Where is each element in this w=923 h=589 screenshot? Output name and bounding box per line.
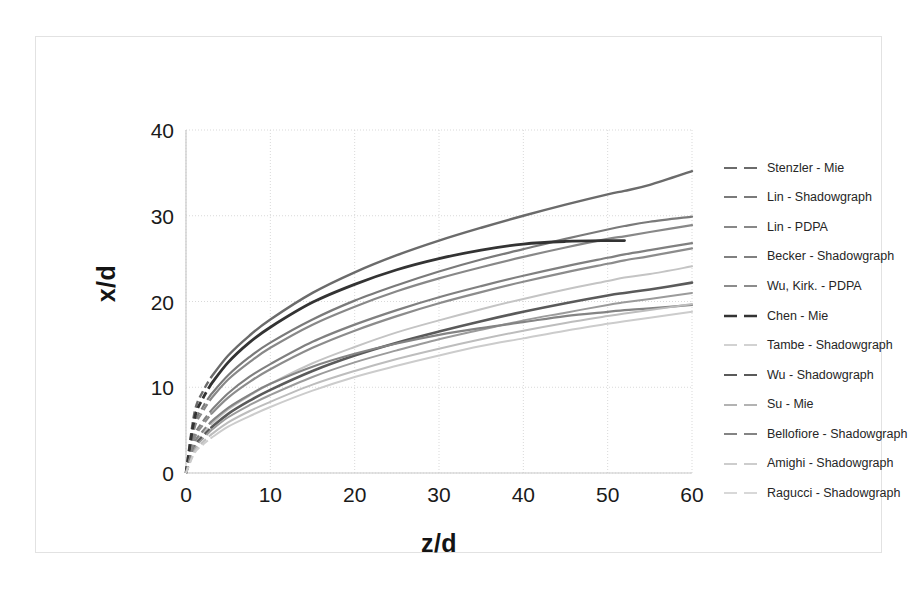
data-curve-dashed-head (186, 414, 211, 473)
legend-label: Ragucci - Shadowgraph (767, 487, 900, 500)
legend-line-icon (724, 487, 760, 499)
y-tick-label: 10 (130, 377, 174, 398)
y-tick-label: 20 (130, 292, 174, 313)
plot-canvas (186, 130, 692, 473)
legend-item[interactable]: Wu - Shadowgraph (724, 360, 920, 390)
legend-label: Chen - Mie (767, 310, 828, 323)
y-tick-label: 40 (130, 120, 174, 141)
data-curve (211, 283, 692, 428)
legend-label: Stenzler - Mie (767, 162, 844, 175)
legend-line-icon (724, 251, 760, 263)
gridlines (186, 130, 692, 473)
x-tick-label: 20 (325, 484, 385, 505)
legend-item[interactable]: Bellofiore - Shadowgraph (724, 419, 920, 449)
legend-line-icon (724, 162, 760, 174)
legend-line-icon (724, 458, 760, 470)
legend-label: Bellofiore - Shadowgraph (767, 428, 907, 441)
x-tick-label: 60 (662, 484, 722, 505)
data-curve (211, 217, 692, 394)
legend-item[interactable]: Becker - Shadowgraph (724, 242, 920, 272)
legend-item[interactable]: Lin - Shadowgraph (724, 183, 920, 213)
legend-label: Wu - Shadowgraph (767, 369, 874, 382)
legend-label: Su - Mie (767, 398, 814, 411)
legend-item[interactable]: Ragucci - Shadowgraph (724, 479, 920, 509)
legend-item[interactable]: Chen - Mie (724, 301, 920, 331)
legend-line-icon (724, 280, 760, 292)
x-tick-label: 30 (409, 484, 469, 505)
legend-item[interactable]: Tambe - Shadowgraph (724, 331, 920, 361)
legend-line-icon (724, 399, 760, 411)
y-tick-label: 30 (130, 206, 174, 227)
legend-label: Becker - Shadowgraph (767, 250, 894, 263)
x-axis-title: z/d (186, 529, 692, 558)
x-tick-label: 50 (578, 484, 638, 505)
legend-item[interactable]: Lin - PDPA (724, 212, 920, 242)
data-curve (211, 304, 692, 434)
y-axis-title: x/d (92, 254, 121, 314)
legend-label: Tambe - Shadowgraph (767, 339, 893, 352)
legend-item[interactable]: Stenzler - Mie (724, 153, 920, 183)
legend-line-icon (724, 221, 760, 233)
chart-figure: x/d 010203040 0102030405060 z/d Stenzler… (0, 0, 923, 589)
chart-frame: x/d 010203040 0102030405060 z/d Stenzler… (35, 36, 882, 553)
chart-legend: Stenzler - MieLin - ShadowgraphLin - PDP… (724, 153, 920, 508)
legend-label: Lin - Shadowgraph (767, 191, 872, 204)
y-tick-label: 0 (130, 463, 174, 484)
y-axis-tick-labels: 010203040 (122, 130, 174, 473)
legend-item[interactable]: Su - Mie (724, 390, 920, 420)
legend-line-icon (724, 339, 760, 351)
legend-line-icon (724, 428, 760, 440)
x-tick-label: 10 (240, 484, 300, 505)
legend-label: Lin - PDPA (767, 221, 828, 234)
x-tick-label: 0 (156, 484, 216, 505)
legend-line-icon (724, 369, 760, 381)
legend-line-icon (724, 191, 760, 203)
legend-label: Wu, Kirk. - PDPA (767, 280, 862, 293)
x-tick-label: 40 (493, 484, 553, 505)
legend-item[interactable]: Amighi - Shadowgraph (724, 449, 920, 479)
x-axis-tick-labels: 0102030405060 (186, 484, 692, 514)
legend-line-icon (724, 310, 760, 322)
data-curve (211, 312, 692, 438)
legend-item[interactable]: Wu, Kirk. - PDPA (724, 271, 920, 301)
legend-label: Amighi - Shadowgraph (767, 457, 893, 470)
plot-area (186, 130, 692, 473)
